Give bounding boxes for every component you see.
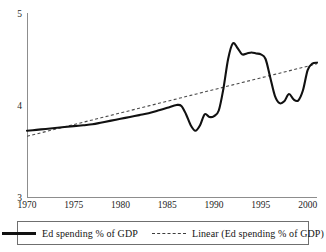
chart-plot-area: 345 1970197519801985199019952000 [0, 0, 326, 214]
legend-swatch-dashed-line-icon [152, 229, 186, 238]
line-chart-svg: 345 1970197519801985199019952000 [0, 0, 326, 214]
y-tick-label: 4 [17, 101, 22, 111]
x-tick-label: 1995 [251, 200, 270, 210]
y-axis-tick-labels: 345 [17, 9, 22, 203]
x-tick-label: 1970 [18, 200, 37, 210]
legend-entry-ed-spending: Ed spending % of GDP [2, 228, 138, 239]
chart-figure: 345 1970197519801985199019952000 Ed spen… [0, 0, 326, 252]
legend-entry-linear-trend: Linear (Ed spending % of GDP) [152, 228, 324, 239]
ed-spending-series-path [27, 43, 317, 131]
x-tick-label: 1980 [111, 200, 130, 210]
legend-swatch-solid-line-icon [2, 229, 36, 238]
chart-legend: Ed spending % of GDP Linear (Ed spending… [17, 221, 309, 245]
x-tick-label: 2000 [298, 200, 317, 210]
x-axis-tick-labels: 1970197519801985199019952000 [18, 200, 318, 210]
x-tick-label: 1985 [158, 200, 177, 210]
x-tick-label: 1990 [205, 200, 224, 210]
y-tick-label: 5 [17, 9, 22, 19]
legend-label-ed-spending: Ed spending % of GDP [42, 228, 138, 239]
legend-label-linear-trend: Linear (Ed spending % of GDP) [192, 228, 324, 239]
x-tick-label: 1975 [64, 200, 83, 210]
linear-trendline-path [27, 64, 317, 136]
